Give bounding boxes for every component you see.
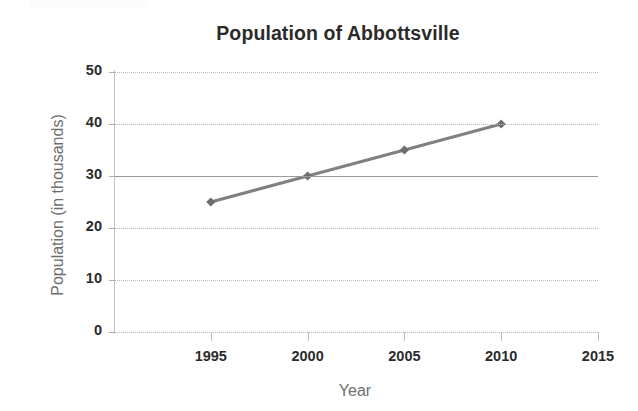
y-tick-0 <box>109 332 115 333</box>
series-line-population <box>211 124 501 202</box>
y-tick-label-0: 0 <box>62 322 102 338</box>
x-tick-label-2000: 2000 <box>263 348 353 364</box>
x-tick-2010 <box>501 332 502 341</box>
x-axis-title: Year <box>310 382 400 400</box>
x-tick-label-2005: 2005 <box>359 348 449 364</box>
y-tick-label-20: 20 <box>62 218 102 234</box>
x-tick-2005 <box>404 332 405 341</box>
x-tick-label-2010: 2010 <box>456 348 546 364</box>
data-series-population <box>114 72 598 332</box>
gridline-y-10 <box>114 280 598 281</box>
data-point-1995 <box>206 197 215 206</box>
gridline-y-0 <box>114 332 598 333</box>
x-tick-2000 <box>308 332 309 341</box>
x-tick-label-2015: 2015 <box>553 348 638 364</box>
y-tick-label-10: 10 <box>62 270 102 286</box>
gridline-y-30 <box>114 176 598 177</box>
x-tick-2015 <box>598 332 599 341</box>
y-tick-label-50: 50 <box>62 62 102 78</box>
y-tick-label-40: 40 <box>62 114 102 130</box>
y-tick-50 <box>109 72 115 73</box>
y-tick-30 <box>109 176 115 177</box>
y-tick-20 <box>109 228 115 229</box>
x-tick-label-1995: 1995 <box>166 348 256 364</box>
chart-title: Population of Abbottsville <box>0 22 638 45</box>
x-tick-1995 <box>211 332 212 341</box>
gridline-y-50 <box>114 72 598 73</box>
gridline-y-20 <box>114 228 598 229</box>
y-axis-title: Population (in thousands) <box>49 75 67 335</box>
gridline-y-40 <box>114 124 598 125</box>
plot-area <box>114 72 598 332</box>
y-tick-label-30: 30 <box>62 166 102 182</box>
data-point-2005 <box>400 145 409 154</box>
y-tick-10 <box>109 280 115 281</box>
scan-artifact <box>30 0 148 9</box>
chart-figure: Population of Abbottsville 01020304050 1… <box>0 0 638 411</box>
y-tick-40 <box>109 124 115 125</box>
